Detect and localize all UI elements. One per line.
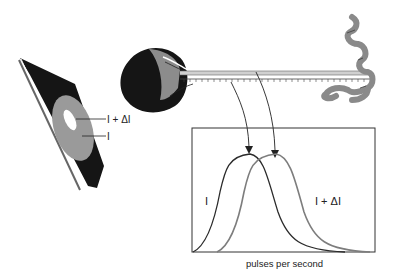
arrow-head-left: [245, 146, 253, 154]
signal-arrows: [231, 72, 275, 150]
graph-label-i: I: [205, 195, 208, 207]
graph-label-i-plus-delta: I + ΔI: [315, 195, 341, 207]
nerve-terminals: [324, 17, 372, 100]
graph-frame: [192, 128, 375, 252]
graph-xlabel: pulses per second: [246, 258, 323, 269]
label-i: I: [107, 131, 110, 142]
eye-icon: [121, 48, 194, 112]
diagram-canvas: I + ΔI I: [0, 0, 394, 277]
stimulus-plate: [19, 58, 106, 190]
label-i-plus-delta: I + ΔI: [107, 114, 131, 125]
axon: [180, 71, 370, 82]
